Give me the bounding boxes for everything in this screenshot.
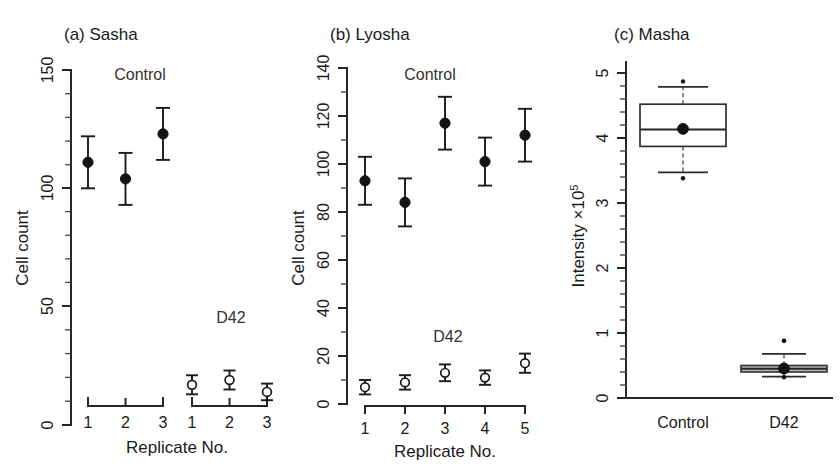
panel-a-point-d42-2 — [224, 371, 236, 390]
outlier-d42-low — [782, 375, 786, 379]
panel-b-xlabel-3: 3 — [441, 420, 450, 437]
panel-c-xlabel-d42: D42 — [769, 414, 798, 431]
panel-c: (c) Masha — [568, 25, 832, 431]
panel-b-point-control-2 — [398, 178, 412, 226]
panel-b-ylabel-60: 60 — [315, 251, 332, 269]
panel-b: (b) Lyosha 140 120 100 80 60 40 — [289, 25, 532, 461]
panel-a-xlabel-c3: 3 — [159, 414, 168, 431]
outlier-d42-high — [782, 338, 787, 343]
panel-a-xlabel-d2: 2 — [225, 414, 234, 431]
panel-b-ylabel-0: 0 — [315, 399, 332, 408]
panel-c-ylabel-4: 4 — [594, 133, 611, 142]
panel-b-y-axis-title: Cell count — [289, 210, 308, 286]
panel-b-ylabel-100: 100 — [315, 151, 332, 178]
panel-b-point-d42-4 — [479, 370, 491, 384]
panel-b-title: (b) Lyosha — [330, 25, 410, 44]
panel-c-xlabel-control: Control — [657, 414, 709, 431]
panel-b-x-axis-title: Replicate No. — [394, 442, 496, 461]
panel-a-y-axis-title: Cell count — [13, 210, 32, 286]
panel-c-y-axis-title-exponent: 5 — [568, 185, 580, 191]
panel-b-group-label-d42: D42 — [433, 328, 462, 345]
panel-b-ylabel-20: 20 — [315, 347, 332, 365]
panel-a-point-control-3 — [156, 108, 170, 160]
panel-c-ylabel-0: 0 — [594, 393, 611, 402]
panel-c-ylabel-5: 5 — [594, 68, 611, 77]
outlier-control-low — [681, 176, 685, 180]
panel-b-point-control-4 — [478, 138, 492, 186]
panel-c-ylabel-3: 3 — [594, 198, 611, 207]
panel-a-x-axis-title: Replicate No. — [126, 438, 228, 457]
panel-a-ylabel-50: 50 — [39, 297, 56, 315]
panel-c-y-axis-title: Intensity ×105 — [568, 185, 588, 288]
panel-b-point-control-5 — [518, 109, 532, 162]
panel-a-xlabel-c2: 2 — [121, 414, 130, 431]
panel-a-group-label-control: Control — [114, 66, 166, 83]
panel-a-point-control-1 — [81, 136, 95, 188]
panel-a-ylabel-0: 0 — [39, 420, 56, 429]
panel-b-point-d42-3 — [439, 364, 451, 381]
panel-b-point-d42-2 — [399, 375, 411, 389]
panel-b-ylabel-40: 40 — [315, 299, 332, 317]
mean-marker-d42 — [779, 363, 790, 374]
figure-canvas: (a) Sasha 150 100 50 0 — [0, 0, 840, 470]
svg-text:Intensity ×105: Intensity ×105 — [568, 185, 588, 288]
panel-b-group-label-control: Control — [404, 66, 456, 83]
panel-b-point-d42-5 — [519, 354, 531, 373]
panel-a-point-d42-3 — [261, 384, 273, 401]
mean-marker-control — [678, 123, 689, 134]
panel-b-xlabel-1: 1 — [361, 420, 370, 437]
panel-c-title: (c) Masha — [614, 25, 690, 44]
panel-b-ylabel-140: 140 — [315, 55, 332, 82]
panel-b-point-d42-1 — [359, 380, 371, 394]
panel-a-title: (a) Sasha — [64, 25, 138, 44]
panel-b-xlabel-4: 4 — [481, 420, 490, 437]
panel-a-xlabel-c1: 1 — [84, 414, 93, 431]
outlier-control-high — [681, 79, 685, 83]
figure-root: (a) Sasha 150 100 50 0 — [0, 0, 840, 470]
panel-c-y-axis-title-main: Intensity ×10 — [569, 191, 588, 288]
panel-b-xlabel-5: 5 — [521, 420, 530, 437]
panel-c-box-d42 — [741, 338, 827, 379]
panel-b-point-control-3 — [438, 97, 452, 150]
panel-a-xlabel-d3: 3 — [263, 414, 272, 431]
panel-a-ylabel-150: 150 — [39, 57, 56, 84]
panel-a-group-label-d42: D42 — [216, 309, 245, 326]
panel-a: (a) Sasha 150 100 50 0 — [13, 25, 273, 457]
panel-c-ylabel-2: 2 — [594, 263, 611, 272]
panel-b-ylabel-80: 80 — [315, 203, 332, 221]
panel-a-point-d42-1 — [186, 375, 198, 394]
panel-a-ylabel-100: 100 — [39, 175, 56, 202]
panel-b-point-control-1 — [358, 157, 372, 205]
panel-c-box-control — [640, 79, 726, 180]
panel-b-ylabel-120: 120 — [315, 103, 332, 130]
panel-b-xlabel-2: 2 — [401, 420, 410, 437]
panel-a-point-control-2 — [119, 153, 133, 205]
panel-c-ylabel-1: 1 — [594, 328, 611, 337]
panel-a-xlabel-d1: 1 — [188, 414, 197, 431]
